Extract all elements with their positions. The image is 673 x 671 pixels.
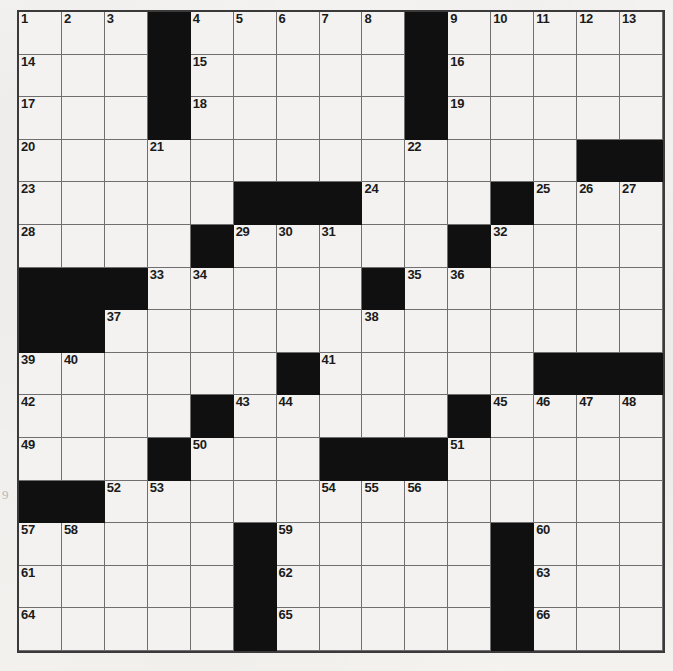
grid-cell[interactable] xyxy=(277,438,320,481)
grid-cell[interactable] xyxy=(405,182,448,225)
grid-cell[interactable] xyxy=(362,353,405,396)
grid-cell[interactable] xyxy=(191,566,234,609)
grid-cell[interactable]: 65 xyxy=(277,608,320,651)
grid-cell[interactable]: 39 xyxy=(19,353,62,396)
grid-cell[interactable] xyxy=(362,97,405,140)
grid-cell[interactable] xyxy=(105,225,148,268)
grid-cell[interactable]: 29 xyxy=(234,225,277,268)
grid-cell[interactable] xyxy=(105,140,148,183)
grid-cell[interactable] xyxy=(105,395,148,438)
grid-cell[interactable] xyxy=(320,523,363,566)
grid-cell[interactable] xyxy=(148,225,191,268)
grid-cell[interactable] xyxy=(491,268,534,311)
grid-cell[interactable] xyxy=(577,55,620,98)
grid-cell[interactable]: 54 xyxy=(320,481,363,524)
grid-cell[interactable] xyxy=(620,523,663,566)
grid-cell[interactable]: 13 xyxy=(620,12,663,55)
grid-cell[interactable] xyxy=(448,608,491,651)
grid-cell[interactable] xyxy=(234,353,277,396)
grid-cell[interactable] xyxy=(320,55,363,98)
grid-cell[interactable] xyxy=(620,225,663,268)
grid-cell[interactable]: 4 xyxy=(191,12,234,55)
grid-cell[interactable] xyxy=(362,225,405,268)
grid-cell[interactable]: 44 xyxy=(277,395,320,438)
grid-cell[interactable] xyxy=(320,310,363,353)
grid-cell[interactable] xyxy=(148,310,191,353)
grid-cell[interactable] xyxy=(405,523,448,566)
grid-cell[interactable]: 8 xyxy=(362,12,405,55)
grid-cell[interactable] xyxy=(105,55,148,98)
grid-cell[interactable]: 32 xyxy=(491,225,534,268)
grid-cell[interactable]: 24 xyxy=(362,182,405,225)
grid-cell[interactable] xyxy=(277,310,320,353)
grid-cell[interactable]: 56 xyxy=(405,481,448,524)
grid-cell[interactable]: 66 xyxy=(534,608,577,651)
grid-cell[interactable]: 27 xyxy=(620,182,663,225)
grid-cell[interactable]: 9 xyxy=(448,12,491,55)
grid-cell[interactable] xyxy=(448,140,491,183)
grid-cell[interactable] xyxy=(577,481,620,524)
grid-cell[interactable] xyxy=(277,55,320,98)
grid-cell[interactable] xyxy=(277,481,320,524)
grid-cell[interactable] xyxy=(191,608,234,651)
grid-cell[interactable] xyxy=(448,353,491,396)
grid-cell[interactable]: 28 xyxy=(19,225,62,268)
grid-cell[interactable] xyxy=(620,481,663,524)
grid-cell[interactable]: 31 xyxy=(320,225,363,268)
grid-cell[interactable] xyxy=(534,140,577,183)
grid-cell[interactable] xyxy=(148,608,191,651)
grid-cell[interactable] xyxy=(577,97,620,140)
grid-cell[interactable] xyxy=(620,608,663,651)
grid-cell[interactable]: 58 xyxy=(62,523,105,566)
grid-cell[interactable]: 1 xyxy=(19,12,62,55)
grid-cell[interactable]: 11 xyxy=(534,12,577,55)
grid-cell[interactable]: 62 xyxy=(277,566,320,609)
grid-cell[interactable] xyxy=(62,140,105,183)
grid-cell[interactable] xyxy=(577,310,620,353)
grid-cell[interactable] xyxy=(534,55,577,98)
grid-cell[interactable] xyxy=(491,481,534,524)
grid-cell[interactable] xyxy=(362,523,405,566)
grid-cell[interactable]: 23 xyxy=(19,182,62,225)
grid-cell[interactable] xyxy=(491,353,534,396)
grid-cell[interactable] xyxy=(62,182,105,225)
grid-cell[interactable] xyxy=(62,566,105,609)
grid-cell[interactable] xyxy=(105,523,148,566)
grid-cell[interactable] xyxy=(491,97,534,140)
grid-cell[interactable] xyxy=(534,481,577,524)
grid-cell[interactable] xyxy=(234,268,277,311)
grid-cell[interactable] xyxy=(620,55,663,98)
grid-cell[interactable] xyxy=(577,268,620,311)
grid-cell[interactable]: 21 xyxy=(148,140,191,183)
grid-cell[interactable] xyxy=(191,310,234,353)
grid-cell[interactable] xyxy=(277,268,320,311)
grid-cell[interactable] xyxy=(362,140,405,183)
grid-cell[interactable] xyxy=(277,140,320,183)
grid-cell[interactable] xyxy=(448,182,491,225)
grid-cell[interactable] xyxy=(534,310,577,353)
grid-cell[interactable] xyxy=(191,182,234,225)
grid-cell[interactable]: 51 xyxy=(448,438,491,481)
grid-cell[interactable]: 63 xyxy=(534,566,577,609)
grid-cell[interactable]: 17 xyxy=(19,97,62,140)
grid-cell[interactable] xyxy=(62,97,105,140)
grid-cell[interactable] xyxy=(620,438,663,481)
grid-cell[interactable]: 3 xyxy=(105,12,148,55)
grid-cell[interactable] xyxy=(405,353,448,396)
grid-cell[interactable] xyxy=(577,523,620,566)
grid-cell[interactable] xyxy=(448,523,491,566)
grid-cell[interactable]: 15 xyxy=(191,55,234,98)
grid-cell[interactable]: 38 xyxy=(362,310,405,353)
grid-cell[interactable]: 18 xyxy=(191,97,234,140)
grid-cell[interactable] xyxy=(148,566,191,609)
grid-cell[interactable] xyxy=(534,97,577,140)
grid-cell[interactable] xyxy=(577,566,620,609)
grid-cell[interactable] xyxy=(491,310,534,353)
grid-cell[interactable] xyxy=(105,97,148,140)
grid-cell[interactable] xyxy=(191,140,234,183)
grid-cell[interactable] xyxy=(191,481,234,524)
grid-cell[interactable] xyxy=(620,566,663,609)
grid-cell[interactable] xyxy=(320,566,363,609)
grid-cell[interactable] xyxy=(534,225,577,268)
grid-cell[interactable]: 53 xyxy=(148,481,191,524)
